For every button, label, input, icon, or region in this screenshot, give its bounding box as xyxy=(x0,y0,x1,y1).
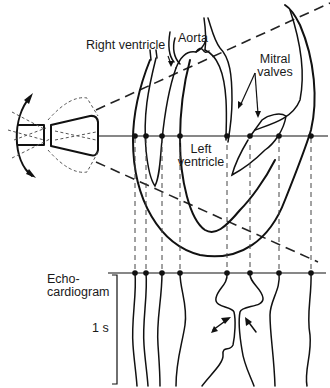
mitral-closure-arrow-icon xyxy=(211,317,231,333)
label-time-scale: 1 s xyxy=(92,322,109,335)
label-left-ventricle-line2: ventricle xyxy=(176,156,226,169)
label-mitral-valves: Mitral valves xyxy=(250,53,300,79)
echo-traces xyxy=(133,273,312,386)
label-mitral-line2: valves xyxy=(250,66,300,79)
label-right-ventricle: Right ventricle xyxy=(86,39,165,52)
label-echo-line2: cardiogram xyxy=(47,286,110,299)
time-scale-bracket xyxy=(112,275,117,384)
label-left-ventricle: Left ventricle xyxy=(176,143,226,169)
label-echocardiogram: Echo- cardiogram xyxy=(47,273,110,299)
label-aorta: Aorta xyxy=(178,32,208,45)
echocardiography-diagram: Right ventricle Aorta Mitral valves Left… xyxy=(0,0,330,388)
mitral-closure-arrow-icon xyxy=(245,317,256,332)
